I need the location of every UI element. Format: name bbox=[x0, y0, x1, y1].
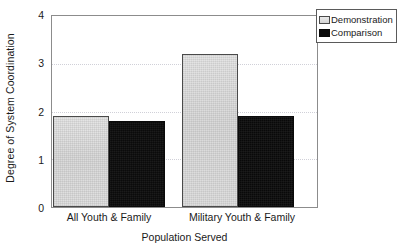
y-tick-label-1: 1 bbox=[22, 155, 44, 165]
bar-comparison-military-youth-family bbox=[238, 116, 294, 207]
legend-swatch-comparison-icon bbox=[319, 29, 330, 37]
x-category-label-all-youth-family: All Youth & Family bbox=[52, 211, 166, 223]
legend: Demonstration Comparison bbox=[316, 9, 397, 43]
x-axis-title: Population Served bbox=[51, 231, 318, 243]
y-axis-title: Degree of System Coordination bbox=[0, 0, 20, 215]
bar-demonstration-military-youth-family bbox=[182, 54, 238, 207]
x-category-label-military-youth-family: Military Youth & Family bbox=[178, 211, 306, 223]
bar-chart: Degree of System Coordination 4 3 2 1 0 … bbox=[0, 0, 408, 252]
y-tick-label-2: 2 bbox=[22, 107, 44, 117]
legend-item-comparison: Comparison bbox=[319, 26, 393, 39]
legend-item-demonstration: Demonstration bbox=[319, 13, 393, 26]
y-tick-label-0: 0 bbox=[22, 203, 44, 213]
y-tick-label-4: 4 bbox=[22, 10, 44, 20]
bar-comparison-all-youth-family bbox=[109, 121, 165, 207]
plot-area bbox=[51, 15, 318, 208]
bar-demonstration-all-youth-family bbox=[53, 116, 109, 207]
legend-swatch-demonstration-icon bbox=[319, 16, 330, 24]
legend-label-comparison: Comparison bbox=[331, 28, 382, 38]
y-axis-title-text: Degree of System Coordination bbox=[4, 33, 16, 182]
legend-label-demonstration: Demonstration bbox=[331, 15, 393, 25]
y-tick-label-3: 3 bbox=[22, 58, 44, 68]
